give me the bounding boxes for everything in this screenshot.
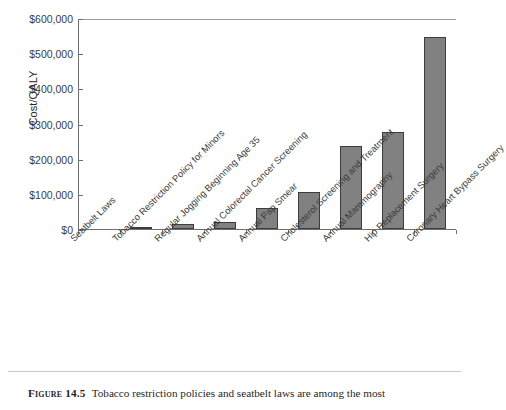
y-tick-mark bbox=[78, 89, 83, 90]
bar bbox=[340, 146, 362, 229]
plot-area: $0$100,000$200,000$300,000$400,000$500,0… bbox=[78, 19, 456, 230]
caption-divider bbox=[8, 371, 461, 372]
bar bbox=[130, 227, 152, 229]
figure-caption-label: Figure 14.5 bbox=[28, 387, 86, 399]
bar bbox=[172, 224, 194, 229]
y-tick-label: $200,000 bbox=[29, 154, 73, 166]
x-tick-mark bbox=[120, 230, 121, 234]
x-tick-mark bbox=[246, 230, 247, 234]
figure-caption: Figure 14.5Tobacco restriction policies … bbox=[28, 386, 460, 400]
y-tick-mark bbox=[78, 54, 83, 55]
y-tick-label: $500,000 bbox=[29, 48, 73, 60]
y-tick-label: $400,000 bbox=[29, 83, 73, 95]
bar bbox=[256, 208, 278, 229]
x-tick-mark bbox=[78, 230, 79, 234]
figure-caption-text: Tobacco restriction policies and seatbel… bbox=[92, 387, 385, 399]
plot-top-rule bbox=[78, 19, 456, 20]
x-tick-mark bbox=[456, 230, 457, 234]
x-tick-mark bbox=[414, 230, 415, 234]
y-tick-label: $100,000 bbox=[29, 189, 73, 201]
bar bbox=[88, 228, 110, 229]
y-tick-mark bbox=[78, 19, 83, 20]
y-tick-mark bbox=[78, 160, 83, 161]
x-tick-mark bbox=[204, 230, 205, 234]
x-tick-mark bbox=[162, 230, 163, 234]
y-tick-label: $600,000 bbox=[29, 13, 73, 25]
bar bbox=[214, 222, 236, 229]
x-axis-line bbox=[78, 229, 456, 230]
y-tick-mark bbox=[78, 125, 83, 126]
bar bbox=[424, 37, 446, 229]
x-tick-mark bbox=[330, 230, 331, 234]
bar bbox=[298, 192, 320, 229]
y-tick-label: $0 bbox=[61, 224, 73, 236]
x-tick-mark bbox=[288, 230, 289, 234]
y-tick-mark bbox=[78, 195, 83, 196]
y-tick-label: $300,000 bbox=[29, 119, 73, 131]
bar bbox=[382, 132, 404, 229]
x-tick-mark bbox=[372, 230, 373, 234]
